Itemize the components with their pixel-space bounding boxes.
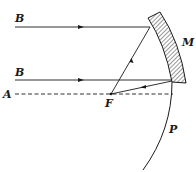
focus-point [110,93,113,96]
label-mirror: M [181,36,195,49]
arrow-icon [78,78,84,82]
surface-p-curve [143,82,172,170]
ray-diagram: B B A F M P [0,0,196,172]
label-ray-bottom: B [14,66,24,79]
mirror-m-band [148,12,186,83]
label-focus: F [104,97,114,110]
label-ray-top: B [14,12,24,25]
arrow-icon [78,25,84,29]
label-surface: P [168,123,178,136]
label-axis: A [2,88,12,101]
